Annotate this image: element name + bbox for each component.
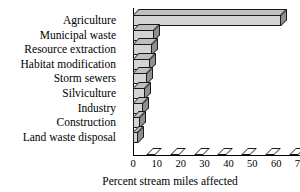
x-tick-marker xyxy=(289,148,298,155)
x-tick-marker xyxy=(146,148,155,155)
x-tick-marker-face xyxy=(170,148,186,155)
bar-chart: AgricultureMunicipal wasteResource extra… xyxy=(0,0,300,192)
x-tick-marker-face xyxy=(146,148,162,155)
category-label: Silviculture xyxy=(0,86,119,101)
x-tick-marker xyxy=(265,148,274,155)
category-label: Industry xyxy=(0,101,119,116)
category-label: Land waste disposal xyxy=(0,130,119,145)
x-tick-label: 60 xyxy=(271,158,282,169)
x-tick-label: 10 xyxy=(152,158,163,169)
bar-top-face xyxy=(133,9,287,15)
x-tick-label: 70 xyxy=(295,158,300,169)
x-tick-marker-face xyxy=(241,148,257,155)
category-label: Habitat modification xyxy=(0,57,119,72)
x-tick-label: 0 xyxy=(130,158,135,169)
x-axis-line xyxy=(133,155,300,156)
category-label: Storm sewers xyxy=(0,71,119,86)
x-tick-label: 50 xyxy=(247,158,258,169)
x-tick-marker xyxy=(170,148,179,155)
x-tick-label: 40 xyxy=(223,158,234,169)
category-axis-labels: AgricultureMunicipal wasteResource extra… xyxy=(0,13,119,144)
x-tick-marker xyxy=(194,148,203,155)
plot-area xyxy=(122,8,300,158)
x-axis-title: Percent stream miles affected xyxy=(0,175,300,187)
x-tick-label: 30 xyxy=(199,158,210,169)
x-tick-marker-face xyxy=(217,148,233,155)
x-tick-marker xyxy=(241,148,250,155)
x-tick-marker-face xyxy=(265,148,281,155)
x-axis-title-text: Percent stream miles affected xyxy=(62,175,238,187)
bar xyxy=(133,131,138,143)
category-label: Construction xyxy=(0,115,119,130)
category-label: Municipal waste xyxy=(0,28,119,43)
x-tick-marker-face xyxy=(289,148,300,155)
x-tick-marker xyxy=(217,148,226,155)
category-label: Resource extraction xyxy=(0,42,119,57)
x-axis-tick-labels: 010203040506070 xyxy=(122,158,300,172)
x-tick-label: 20 xyxy=(175,158,186,169)
category-label: Agriculture xyxy=(0,13,119,28)
x-tick-marker-face xyxy=(194,148,210,155)
